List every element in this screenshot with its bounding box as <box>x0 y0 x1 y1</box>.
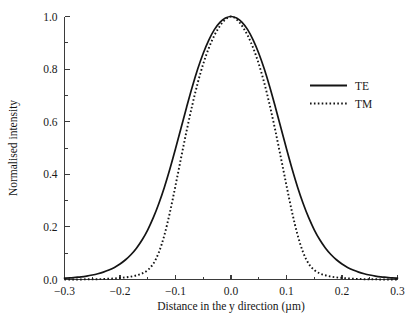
y-tick-label: 0.4 <box>43 168 58 180</box>
y-tick-label: 0.0 <box>43 274 58 286</box>
y-tick-label: 0.8 <box>43 63 58 75</box>
x-tick-label: 0.1 <box>279 285 294 297</box>
x-axis-title: Distance in the y direction (µm) <box>157 300 305 313</box>
axes <box>65 17 398 280</box>
curve-tm <box>65 17 398 280</box>
legend-label-tm: TM <box>355 98 372 110</box>
x-axis-tick-labels: −0.3−0.2−0.10.00.10.20.3 <box>54 285 405 297</box>
x-tick-label: −0.2 <box>110 285 131 297</box>
x-axis-ticks <box>65 275 398 280</box>
curve-te <box>65 17 398 279</box>
legend: TE TM <box>310 80 372 110</box>
x-tick-label: 0.3 <box>390 285 405 297</box>
legend-label-te: TE <box>355 80 369 92</box>
normalised-intensity-line-chart: −0.3−0.2−0.10.00.10.20.3 0.00.20.40.60.8… <box>0 0 419 324</box>
x-tick-label: 0.0 <box>224 285 239 297</box>
y-tick-label: 0.2 <box>43 221 58 233</box>
data-curves <box>65 17 398 280</box>
x-tick-label: −0.3 <box>54 285 75 297</box>
y-axis-tick-labels: 0.00.20.40.60.81.0 <box>43 11 58 286</box>
x-tick-label: −0.1 <box>165 285 186 297</box>
chart-figure: −0.3−0.2−0.10.00.10.20.3 0.00.20.40.60.8… <box>0 0 419 324</box>
y-axis-ticks <box>65 17 70 280</box>
x-tick-label: 0.2 <box>335 285 350 297</box>
y-tick-label: 0.6 <box>43 116 58 128</box>
y-axis-title: Normalised intensity <box>7 100 20 196</box>
y-tick-label: 1.0 <box>43 11 58 23</box>
